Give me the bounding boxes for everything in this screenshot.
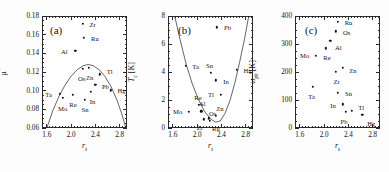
- data-point-label: Pb: [224, 24, 231, 31]
- data-point-label: Pb: [102, 82, 109, 89]
- data-point-label: Mo: [58, 104, 67, 111]
- data-point-label: Ta: [45, 90, 52, 97]
- data-point-label: Ru: [345, 18, 353, 25]
- data-point-label: Hg: [367, 119, 375, 126]
- data-point-label: Mo: [300, 51, 309, 58]
- data-point-label: Ru: [91, 34, 99, 41]
- data-point-label: Os: [343, 29, 350, 36]
- data-point-label: Al: [199, 100, 206, 107]
- data-point-label: Mo: [173, 107, 182, 114]
- data-point-label: Hg: [244, 66, 252, 73]
- data-point-label: Al: [335, 43, 342, 50]
- data-point-label: Sn: [345, 90, 352, 97]
- panel-label: (c): [305, 24, 317, 36]
- data-point-label: Ta: [308, 92, 315, 99]
- figure-container: (a)0.060.080.100.120.140.160.181.62.02.4…: [0, 0, 389, 172]
- data-point-label: Zr: [90, 20, 96, 27]
- data-point-label: Re: [323, 54, 330, 61]
- data-point-label: Al: [61, 48, 68, 55]
- data-point-label: Re: [69, 100, 76, 107]
- data-point-label: Zn: [216, 104, 223, 111]
- data-point-label: Pb: [341, 117, 348, 124]
- data-point-label: Hg: [118, 87, 126, 94]
- data-point-label: Zn: [349, 66, 356, 73]
- data-point-label: Tl: [208, 91, 214, 98]
- data-point-label: Os: [78, 74, 85, 81]
- data-point-label: Zr: [197, 124, 203, 131]
- data-point-label: Sn: [82, 105, 89, 112]
- data-point-label: Zr: [334, 78, 340, 85]
- data-point-label: In: [90, 98, 96, 105]
- panel-label: (a): [50, 24, 62, 36]
- panel-label: (b): [178, 24, 191, 36]
- data-point-label: Ru: [212, 125, 220, 132]
- data-point-label: Tl: [358, 103, 364, 110]
- data-point-label: Zn: [86, 73, 93, 80]
- data-point-label: In: [330, 102, 336, 109]
- data-point-label: Sn: [206, 61, 213, 68]
- data-point-label: Ta: [192, 62, 199, 69]
- data-point-label: Tl: [107, 68, 113, 75]
- data-point-label: In: [223, 78, 229, 85]
